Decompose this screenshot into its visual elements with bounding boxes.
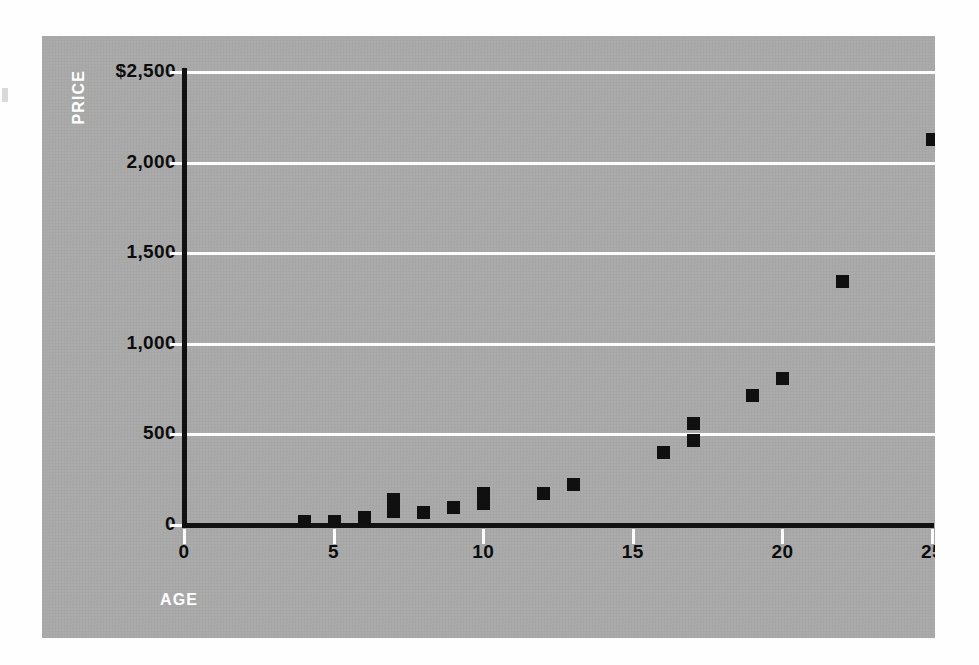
- data-point-marker: [926, 133, 935, 146]
- x-axis-tick-mark: [183, 529, 186, 544]
- x-axis-tick-label: 0: [154, 541, 214, 563]
- data-point-marker: [657, 446, 670, 459]
- x-axis-tick-mark: [333, 529, 336, 544]
- x-axis-tick-label: 25: [902, 541, 935, 563]
- data-point-marker: [387, 505, 400, 518]
- y-axis-tick-label: 0: [60, 513, 176, 535]
- data-point-marker: [567, 478, 580, 491]
- y-axis-tick-label: 500: [60, 422, 176, 444]
- data-point-marker: [298, 515, 311, 528]
- y-axis-tick-label: 1,000: [60, 332, 176, 354]
- y-axis-tick-label: 2,000: [60, 151, 176, 173]
- data-point-marker: [537, 487, 550, 500]
- x-axis-tick-mark: [632, 529, 635, 544]
- data-point-marker: [836, 275, 849, 288]
- gridline-horizontal: [182, 71, 935, 74]
- data-point-marker: [417, 506, 430, 519]
- data-point-marker: [328, 515, 341, 528]
- data-point-marker: [687, 434, 700, 447]
- x-axis-tick-label: 10: [453, 541, 513, 563]
- y-axis-line: [182, 68, 187, 526]
- data-point-marker: [687, 417, 700, 430]
- x-axis-line: [182, 523, 934, 528]
- data-point-marker: [776, 372, 789, 385]
- page-canvas: 05001,0001,5002,000$2,500 0510152025 PRI…: [0, 0, 979, 665]
- gridline-horizontal: [182, 433, 935, 436]
- x-axis-tick-mark: [482, 529, 485, 544]
- data-point-marker: [358, 511, 371, 524]
- y-axis-title: PRICE: [70, 70, 88, 124]
- gridline-horizontal: [182, 252, 935, 255]
- data-point-marker: [477, 487, 490, 500]
- x-axis-title: AGE: [160, 591, 198, 609]
- scan-artifact-mark: [2, 88, 8, 102]
- y-axis-tick-label: 1,500: [60, 241, 176, 263]
- x-axis-tick-label: 5: [304, 541, 364, 563]
- gridline-horizontal: [182, 162, 935, 165]
- data-point-marker: [387, 493, 400, 506]
- x-axis-tick-label: 15: [603, 541, 663, 563]
- x-axis-tick-mark: [781, 529, 784, 544]
- data-point-marker: [746, 389, 759, 402]
- gridline-horizontal: [182, 343, 935, 346]
- data-point-marker: [447, 501, 460, 514]
- scatter-plot-panel: 05001,0001,5002,000$2,500 0510152025 PRI…: [42, 36, 935, 638]
- x-axis-tick-label: 20: [752, 541, 812, 563]
- x-axis-tick-mark: [931, 529, 934, 544]
